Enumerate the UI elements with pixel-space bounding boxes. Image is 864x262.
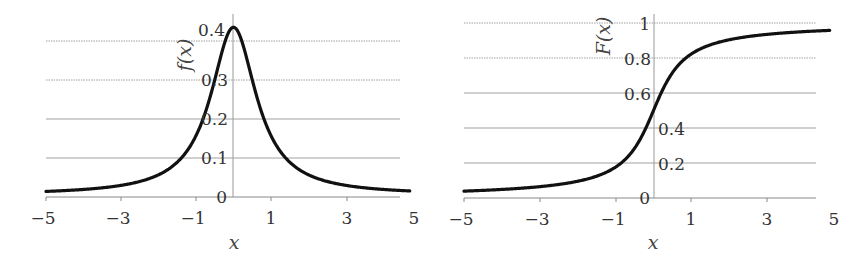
- chart-canvas: 0 0.1 0.2 0.3 0.4 −5 −3 −1 1 3 5 x f(x): [0, 0, 864, 262]
- left-ytick-0.3: 0.3: [201, 70, 228, 90]
- right-ytick-0.2: 0.2: [658, 154, 685, 174]
- right-ytick-1: 1: [639, 14, 650, 34]
- right-xtick--1: −1: [600, 209, 625, 229]
- left-x-axis-label: x: [229, 231, 240, 253]
- left-x-ticks: [46, 197, 347, 201]
- left-ytick-0.2: 0.2: [201, 109, 228, 129]
- right-ytick-0.8: 0.8: [624, 49, 651, 69]
- left-ytick-0: 0: [216, 187, 227, 207]
- right-chart: 0 0.2 0.4 0.6 0.8 1 −5 −3 −1 1 3 5 x F(x…: [448, 14, 839, 253]
- left-xtick-3: 3: [342, 208, 353, 228]
- left-y-axis-label: f(x): [173, 39, 195, 74]
- left-chart: 0 0.1 0.2 0.3 0.4 −5 −3 −1 1 3 5 x f(x): [30, 14, 419, 253]
- left-ytick-0.1: 0.1: [201, 148, 228, 168]
- right-xtick-3: 3: [762, 209, 773, 229]
- right-y-axis-label: F(x): [592, 17, 614, 57]
- left-xtick-5: 5: [409, 208, 420, 228]
- right-xtick-5: 5: [829, 209, 840, 229]
- right-ytick-0.6: 0.6: [624, 84, 651, 104]
- right-xtick-1: 1: [686, 209, 697, 229]
- left-xtick-1: 1: [266, 208, 277, 228]
- right-xtick--3: −3: [524, 209, 549, 229]
- left-xtick--3: −3: [105, 208, 130, 228]
- right-ytick-0: 0: [639, 188, 650, 208]
- left-xtick--5: −5: [30, 208, 55, 228]
- left-xtick--1: −1: [180, 208, 205, 228]
- left-gridlines: [46, 41, 400, 158]
- right-xtick--5: −5: [448, 209, 473, 229]
- right-x-ticks: [464, 198, 767, 202]
- right-x-axis-label: x: [648, 231, 659, 253]
- right-ytick-0.4: 0.4: [658, 119, 685, 139]
- left-ytick-0.4: 0.4: [198, 20, 225, 40]
